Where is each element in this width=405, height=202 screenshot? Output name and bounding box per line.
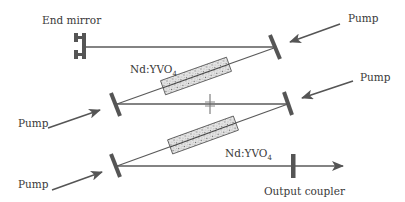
pump-arrow-top-right-icon <box>290 24 340 42</box>
pump-label-bottom-left: Pump <box>18 178 49 190</box>
diagram-canvas: End mirror Nd:YVO4 Nd:YVO4 Output couple… <box>0 0 405 202</box>
end-mirror-label: End mirror <box>42 14 102 26</box>
pump-arrow-mid-left-icon <box>48 110 100 128</box>
pump-arrow-bottom-left-icon <box>52 172 102 190</box>
pump-label-mid-left: Pump <box>18 117 49 129</box>
end-mirror-icon <box>74 33 86 59</box>
laser-cavity-diagram: End mirror Nd:YVO4 Nd:YVO4 Output couple… <box>0 0 405 202</box>
crystal-2-label: Nd:YVO4 <box>225 147 272 162</box>
output-coupler-icon <box>291 154 296 178</box>
pump-label-mid-right: Pump <box>360 71 391 83</box>
pump-label-top-right: Pump <box>348 12 379 24</box>
pump-arrow-mid-right-icon <box>302 81 353 98</box>
crystal-1-label: Nd:YVO4 <box>130 63 177 78</box>
output-coupler-label: Output coupler <box>264 185 346 197</box>
